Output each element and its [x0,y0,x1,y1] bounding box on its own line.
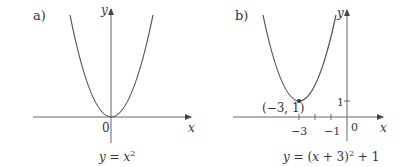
x-axis-label: x [188,121,195,135]
figure: a) y x 0 y = x2 b) (−3, 1) 1 −3 −1 0 x y… [0,0,401,167]
equation-caption: y = x2 [98,149,135,164]
x-tick-label-neg1: −1 [324,125,340,138]
y-axis-label: y [100,3,108,17]
equation-caption: y = (x + 3)2 + 1 [282,149,379,164]
origin-label: 0 [102,121,110,135]
y-tick-label-1: 1 [337,96,344,109]
x-tick-label-neg3: −3 [291,125,307,138]
panel-b: b) (−3, 1) 1 −3 −1 0 x y y = (x + 3)2 + … [233,6,387,164]
panel-b-label: b) [235,8,248,23]
x-axis-label: x [380,121,387,135]
y-axis-label: y [336,6,344,20]
panel-a-label: a) [33,8,46,23]
panel-a: a) y x 0 y = x2 [33,3,195,164]
vertex-label: (−3, 1) [262,101,304,115]
parabola-curve [263,15,336,101]
origin-label: 0 [351,121,358,134]
